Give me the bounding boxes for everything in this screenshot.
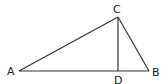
label-a: A — [7, 65, 15, 78]
triangle-diagram: A B C D — [0, 0, 162, 84]
label-d: D — [114, 74, 122, 84]
label-c: C — [113, 3, 121, 16]
segment-bc — [118, 17, 149, 71]
label-b: B — [152, 66, 160, 79]
segment-ac — [19, 17, 118, 71]
